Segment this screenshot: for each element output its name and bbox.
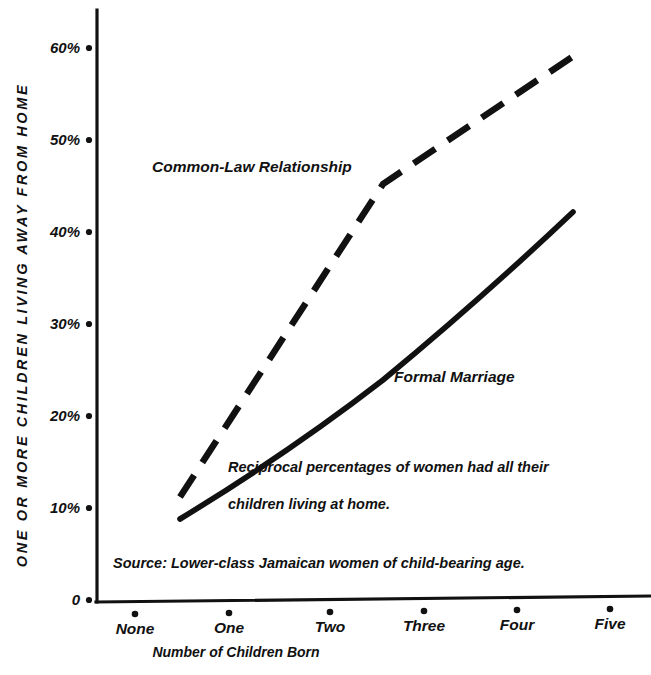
y-tick-label-40: 40% [18, 224, 80, 240]
x-tick-dot-five [607, 606, 614, 613]
y-tick-label-0: 0 [18, 592, 80, 608]
x-tick-dot-three [421, 608, 428, 615]
y-tick-dot-10 [86, 505, 92, 511]
x-tick-label-none: None [90, 620, 180, 638]
y-tick-label-10: 10% [18, 500, 80, 516]
plot-area [0, 0, 651, 675]
x-tick-label-three: Three [379, 617, 469, 635]
x-axis-title: Number of Children Born [86, 644, 386, 661]
y-tick-label-60: 60% [18, 40, 80, 56]
note-line-1: Reciprocal percentages of women had all … [228, 458, 549, 476]
line-chart: ONE OR MORE CHILDREN LIVING AWAY FROM HO… [0, 0, 651, 675]
y-tick-label-30: 30% [18, 316, 80, 332]
x-axis-line [96, 596, 651, 602]
x-tick-dot-none [132, 611, 139, 618]
y-tick-dot-0 [86, 597, 92, 603]
y-tick-label-20: 20% [18, 408, 80, 424]
x-tick-label-two: Two [285, 618, 375, 636]
y-tick-dot-50 [86, 137, 92, 143]
series-label-common-law: Common-Law Relationship [152, 158, 352, 176]
x-tick-label-one: One [184, 619, 274, 637]
x-tick-label-five: Five [565, 615, 651, 633]
x-tick-dot-two [327, 609, 334, 616]
series-line-common-law [180, 55, 575, 497]
source-note: Source: Lower-class Jamaican women of ch… [113, 554, 525, 572]
series-label-formal-marriage: Formal Marriage [394, 368, 515, 386]
x-tick-dot-one [226, 610, 233, 617]
x-tick-dot-four [514, 607, 521, 614]
y-tick-dot-20 [86, 413, 92, 419]
x-tick-label-four: Four [472, 616, 562, 634]
y-tick-dot-40 [86, 229, 92, 235]
y-tick-label-50: 50% [18, 132, 80, 148]
y-tick-dot-60 [86, 45, 92, 51]
y-tick-dot-30 [86, 321, 92, 327]
note-line-2: children living at home. [228, 495, 390, 513]
